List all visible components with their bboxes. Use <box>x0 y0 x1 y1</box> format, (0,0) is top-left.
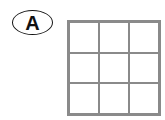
grid-cell-1-1 <box>99 53 129 84</box>
grid-3x3 <box>67 20 161 116</box>
grid-cell-0-2 <box>129 22 159 53</box>
option-letter: A <box>25 13 39 33</box>
grid-cell-2-2 <box>129 83 159 114</box>
grid-cell-0-1 <box>99 22 129 53</box>
option-label-badge: A <box>12 10 53 35</box>
grid-cell-2-1 <box>99 83 129 114</box>
grid-cell-2-0 <box>69 83 99 114</box>
grid-cell-1-0 <box>69 53 99 84</box>
grid-cell-1-2 <box>129 53 159 84</box>
grid-cell-0-0 <box>69 22 99 53</box>
